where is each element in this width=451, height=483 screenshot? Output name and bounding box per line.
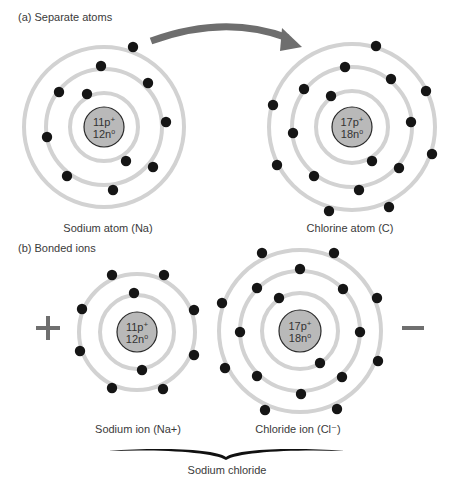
electron — [42, 132, 52, 142]
chlorine-atom: 17p+18no — [268, 41, 437, 216]
electron — [82, 89, 92, 99]
electron — [421, 86, 431, 96]
electron — [235, 327, 245, 337]
electron — [315, 358, 325, 368]
electron — [143, 78, 153, 88]
electron — [62, 171, 72, 181]
electron — [337, 372, 347, 382]
electron — [340, 62, 350, 72]
ionic-bond-diagram: (a) Separate atoms (b) Bonded ions 11p+1… — [0, 0, 451, 483]
electron — [274, 293, 284, 303]
electron — [296, 389, 306, 399]
electron — [161, 117, 171, 127]
electron — [189, 350, 199, 360]
sodium-atom: 11p+12no — [24, 42, 184, 207]
sodium-ion: 11p+12no — [75, 270, 199, 394]
curly-brace-icon — [108, 449, 345, 460]
electron — [220, 363, 230, 373]
electron — [96, 61, 106, 71]
electron — [367, 156, 377, 166]
electron — [324, 206, 334, 216]
electron — [257, 248, 267, 258]
section-b-label: (b) Bonded ions — [18, 242, 96, 254]
electron — [129, 288, 139, 298]
electron — [121, 156, 131, 166]
electron — [332, 404, 342, 414]
electron — [373, 356, 383, 366]
sodium-ion-caption: Sodium ion (Na+) — [95, 423, 181, 435]
electron — [54, 87, 64, 97]
electron — [252, 371, 262, 381]
electron — [427, 149, 437, 159]
electron — [355, 327, 365, 337]
electron — [329, 248, 339, 258]
sodium-atom-caption: Sodium atom (Na) — [63, 222, 152, 234]
electron — [299, 84, 309, 94]
electron — [107, 383, 117, 393]
electron — [128, 42, 138, 52]
chloride-ion-caption: Chloride ion (Cl⁻) — [255, 423, 340, 435]
chloride-ion: 17p+18no — [217, 248, 383, 415]
plus-sign-icon — [36, 316, 60, 340]
curved-arrow-icon — [151, 27, 302, 51]
chlorine-atom-caption: Chlorine atom (C) — [307, 222, 394, 234]
electron — [372, 293, 382, 303]
electron — [252, 283, 262, 293]
electron — [107, 270, 117, 280]
compound-label: Sodium chloride — [188, 464, 267, 476]
electron — [371, 41, 381, 51]
section-a-label: (a) Separate atoms — [18, 11, 113, 23]
electron — [137, 365, 147, 375]
electron — [260, 405, 270, 415]
electron — [354, 185, 364, 195]
electron — [386, 74, 396, 84]
electron — [326, 91, 336, 101]
electron — [406, 117, 416, 127]
electron — [108, 185, 118, 195]
electron — [189, 305, 199, 315]
electron — [272, 160, 282, 170]
electron — [338, 284, 348, 294]
electron — [158, 384, 168, 394]
electron — [288, 128, 298, 138]
electron — [384, 202, 394, 212]
electron — [75, 346, 85, 356]
electron — [217, 298, 227, 308]
electron — [159, 270, 169, 280]
electron — [309, 171, 319, 181]
electron — [268, 100, 278, 110]
electron — [148, 162, 158, 172]
electron — [77, 304, 87, 314]
electron — [394, 163, 404, 173]
electron — [295, 264, 305, 274]
